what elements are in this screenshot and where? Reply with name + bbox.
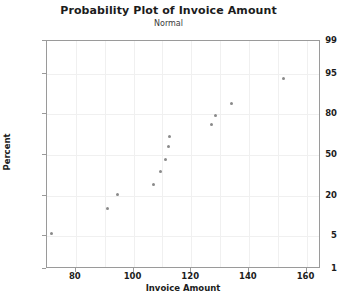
x-axis-title: Invoice Amount xyxy=(46,283,320,293)
gridline-horizontal xyxy=(47,236,319,237)
chart-title: Probability Plot of Invoice Amount xyxy=(0,4,337,17)
y-tick-mark xyxy=(42,73,46,74)
gridline-horizontal xyxy=(47,155,319,156)
y-tick-mark xyxy=(42,154,46,155)
x-tick-label: 80 xyxy=(55,272,95,281)
x-tick-label: 140 xyxy=(228,272,268,281)
chart-subtitle: Normal xyxy=(0,19,337,28)
x-tick-mark xyxy=(190,268,191,272)
y-tick-label: 99 xyxy=(297,36,337,45)
gridline-horizontal xyxy=(47,114,319,115)
data-point xyxy=(282,77,285,80)
y-tick-mark xyxy=(42,235,46,236)
y-axis-title: Percent xyxy=(2,122,12,182)
data-point xyxy=(168,135,171,138)
data-point xyxy=(164,158,167,161)
x-tick-label: 160 xyxy=(286,272,326,281)
y-tick-label: 50 xyxy=(297,150,337,159)
y-tick-label: 5 xyxy=(297,231,337,240)
probability-plot-figure: Probability Plot of Invoice Amount Norma… xyxy=(0,0,337,296)
data-point xyxy=(210,123,213,126)
x-tick-mark xyxy=(75,268,76,272)
data-point xyxy=(230,102,233,105)
y-tick-label: 20 xyxy=(297,191,337,200)
x-tick-mark xyxy=(248,268,249,272)
data-point xyxy=(106,207,109,210)
x-tick-mark xyxy=(306,268,307,272)
y-tick-mark xyxy=(42,268,46,269)
y-tick-mark xyxy=(42,40,46,41)
y-tick-mark xyxy=(42,195,46,196)
data-point xyxy=(152,183,155,186)
x-tick-label: 100 xyxy=(113,272,153,281)
gridline-horizontal xyxy=(47,196,319,197)
gridline-horizontal xyxy=(47,74,319,75)
y-tick-label: 95 xyxy=(297,69,337,78)
x-tick-label: 120 xyxy=(170,272,210,281)
data-point xyxy=(167,145,170,148)
x-tick-mark xyxy=(133,268,134,272)
y-tick-label: 80 xyxy=(297,109,337,118)
plot-area xyxy=(46,40,320,268)
data-point xyxy=(214,114,217,117)
y-tick-mark xyxy=(42,113,46,114)
